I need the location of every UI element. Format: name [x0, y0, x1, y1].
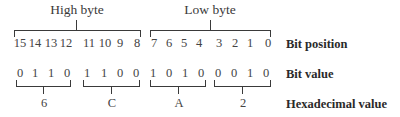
bit-value: 0	[263, 67, 269, 80]
low-byte-title: Low byte	[184, 3, 235, 17]
bit-position: 5	[181, 37, 187, 50]
bit-position: 13	[45, 37, 58, 50]
bit-value: 0	[64, 67, 70, 80]
bit-value: 0	[231, 67, 237, 80]
bit-value: 1	[32, 67, 38, 80]
bit-value: 0	[215, 67, 221, 80]
bit-position: 9	[117, 37, 123, 50]
hex-digit: 6	[41, 97, 47, 110]
bit-position: 11	[83, 37, 95, 50]
bit-value: 0	[133, 67, 139, 80]
bit-position: 7	[151, 37, 157, 50]
bit-position: 0	[265, 37, 271, 50]
bit-position: 2	[232, 37, 238, 50]
high-byte-title: High byte	[50, 3, 104, 17]
hex-digit: 2	[240, 97, 246, 110]
bit-value: 1	[182, 67, 188, 80]
bit-position: 14	[29, 37, 42, 50]
bit-value: 0	[17, 67, 23, 80]
bit-value: 1	[247, 67, 253, 80]
bit-value: 1	[150, 67, 156, 80]
bit-position: 15	[14, 37, 27, 50]
bit-value-label: Bit value	[286, 67, 334, 82]
bit-position: 12	[60, 37, 73, 50]
bit-value: 1	[48, 67, 54, 80]
bit-value: 0	[198, 67, 204, 80]
hex-digit: A	[174, 97, 183, 110]
bit-position: 1	[247, 37, 253, 50]
bit-value: 1	[101, 67, 107, 80]
bit-position-label: Bit position	[286, 37, 347, 52]
hex-digit: C	[108, 97, 116, 110]
bit-position: 4	[196, 37, 202, 50]
bit-position: 6	[166, 37, 172, 50]
bit-position: 8	[134, 37, 140, 50]
hex-value-label: Hexadecimal value	[286, 97, 387, 112]
bit-position: 3	[216, 37, 222, 50]
bit-value: 0	[166, 67, 172, 80]
bit-value: 1	[84, 67, 90, 80]
bit-position: 10	[99, 37, 112, 50]
bit-value: 0	[117, 67, 123, 80]
